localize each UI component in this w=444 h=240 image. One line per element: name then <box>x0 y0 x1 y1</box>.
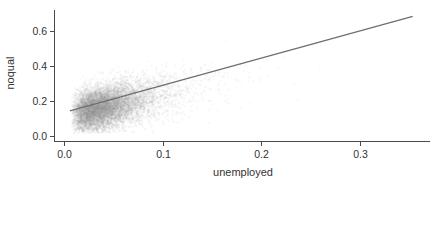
data-point <box>161 108 163 110</box>
data-point <box>203 64 205 66</box>
data-point <box>162 120 164 122</box>
data-point <box>71 128 73 130</box>
data-point <box>101 86 103 88</box>
data-point <box>82 75 84 77</box>
data-point <box>82 130 84 132</box>
data-point <box>167 118 169 120</box>
data-point <box>277 67 279 69</box>
data-point <box>117 89 119 91</box>
data-point <box>136 125 138 127</box>
data-point <box>161 71 163 73</box>
data-point <box>224 65 226 67</box>
data-point <box>171 106 173 108</box>
x-tick-label: 0.0 <box>57 148 72 160</box>
data-point <box>125 76 127 78</box>
data-point <box>210 62 212 64</box>
data-point <box>87 96 89 98</box>
data-point <box>248 76 250 78</box>
data-point <box>227 76 229 78</box>
data-point <box>143 103 145 105</box>
data-point <box>126 79 128 81</box>
data-point <box>187 88 189 90</box>
data-point <box>91 101 93 103</box>
data-point <box>110 126 112 128</box>
data-point <box>75 101 77 103</box>
data-point <box>129 75 131 77</box>
data-point <box>166 115 168 117</box>
data-point <box>189 98 191 100</box>
data-point <box>186 72 188 74</box>
data-point <box>96 111 98 113</box>
data-point <box>129 115 131 117</box>
data-point <box>187 101 189 103</box>
data-point <box>132 132 134 134</box>
data-point <box>245 64 247 66</box>
data-point <box>121 120 123 122</box>
data-point <box>131 96 133 98</box>
data-point <box>85 98 87 100</box>
data-point <box>223 71 225 73</box>
data-point <box>185 93 187 95</box>
data-point <box>132 91 134 93</box>
data-point <box>171 84 173 86</box>
data-point <box>165 74 167 76</box>
data-point <box>267 75 269 77</box>
data-point <box>133 69 135 71</box>
data-point <box>248 79 250 81</box>
data-point <box>97 132 99 134</box>
data-point <box>89 108 91 110</box>
data-point <box>90 84 92 86</box>
data-point <box>204 78 206 80</box>
data-point <box>208 109 210 111</box>
data-point <box>176 112 178 114</box>
data-point <box>149 108 151 110</box>
data-point <box>96 99 98 101</box>
data-point <box>160 94 162 96</box>
data-point <box>128 82 130 84</box>
data-point <box>296 98 298 100</box>
data-point <box>92 113 94 115</box>
data-point <box>117 131 119 133</box>
x-ticks: 0.00.10.20.3 <box>57 142 368 161</box>
data-point <box>102 115 104 117</box>
data-point <box>148 99 150 101</box>
data-point <box>118 99 120 101</box>
data-point <box>84 125 86 127</box>
data-point <box>125 72 127 74</box>
data-point <box>117 113 119 115</box>
data-point <box>174 64 176 66</box>
data-point <box>144 93 146 95</box>
data-point <box>185 85 187 87</box>
data-point <box>108 96 110 98</box>
data-point <box>134 97 136 99</box>
data-point <box>143 86 145 88</box>
data-point <box>120 91 122 93</box>
data-point <box>82 83 84 85</box>
data-point <box>102 131 104 133</box>
data-point <box>157 74 159 76</box>
data-point <box>86 92 88 94</box>
data-point <box>96 86 98 88</box>
data-point <box>128 71 130 73</box>
data-point <box>224 83 226 85</box>
data-point <box>88 127 90 129</box>
data-point <box>173 77 175 79</box>
data-point <box>119 78 121 80</box>
data-point <box>82 86 84 88</box>
data-point <box>105 81 107 83</box>
data-point <box>102 93 104 95</box>
data-point <box>121 93 123 95</box>
data-point <box>210 88 212 90</box>
data-point <box>193 98 195 100</box>
data-point <box>238 80 240 82</box>
data-point <box>132 98 134 100</box>
data-point <box>153 105 155 107</box>
data-point <box>141 114 143 116</box>
data-point <box>168 106 170 108</box>
data-point <box>85 122 87 124</box>
data-point <box>81 102 83 104</box>
data-point <box>113 120 115 122</box>
data-point <box>107 110 109 112</box>
data-point <box>156 97 158 99</box>
data-point <box>171 117 173 119</box>
